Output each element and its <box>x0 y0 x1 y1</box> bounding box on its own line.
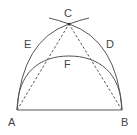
segment-bc-dashed <box>69 24 122 110</box>
label-f: F <box>64 58 71 70</box>
arc-left-outer <box>17 18 89 110</box>
point-c-marker <box>68 23 71 26</box>
arc-right-outer <box>49 18 122 110</box>
label-e: E <box>24 38 31 50</box>
label-a: A <box>8 116 16 128</box>
label-c: C <box>64 7 72 19</box>
label-d: D <box>106 38 114 50</box>
label-b: B <box>121 116 128 128</box>
segment-ac-dashed <box>17 24 69 110</box>
geometry-diagram: C E D F A B <box>0 0 137 135</box>
